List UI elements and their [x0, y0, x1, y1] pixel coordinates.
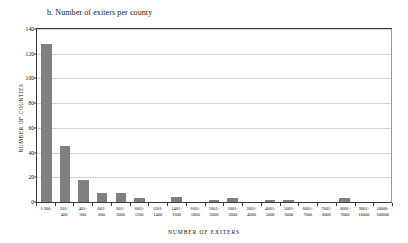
- bar-slot: [186, 29, 205, 202]
- x-tick-label: 8001-9000: [336, 206, 355, 217]
- x-tickmark: [392, 203, 393, 206]
- bar-slot: [354, 29, 373, 202]
- bar-slot: [93, 29, 112, 202]
- x-tick-label: 801-1000: [111, 206, 130, 217]
- bar: [41, 44, 51, 202]
- x-tick-label: 1801-2000: [205, 206, 224, 217]
- x-axis-title: NUMBER OF EXITERS: [0, 229, 408, 235]
- x-tick-label: 2001-3000: [223, 206, 242, 217]
- x-tick-label: 1201-1400: [148, 206, 167, 217]
- x-tick-label: 9001-10000: [354, 206, 373, 217]
- x-tick-label: 1401-1600: [167, 206, 186, 217]
- chart-page: b. Number of exiters per county NUMBER O…: [0, 0, 408, 243]
- x-tick-label: 7001-8000: [317, 206, 336, 217]
- y-axis-title: NUMBER OF COUNTIES: [18, 58, 24, 178]
- bar-slot: [279, 29, 298, 202]
- x-tick-label: 601-800: [92, 206, 111, 217]
- x-tick-label: 5001-6000: [280, 206, 299, 217]
- bar-slot: [335, 29, 354, 202]
- x-tick-label: 1-200: [36, 206, 55, 217]
- y-tick-label: 80: [28, 100, 34, 106]
- bar-slot: [74, 29, 93, 202]
- y-tick-label: 0: [31, 199, 34, 205]
- bar: [209, 200, 219, 202]
- y-tick-label: 120: [26, 51, 34, 57]
- x-axis-tick-labels: 1-200201-400401-600601-800801-10001001-1…: [36, 206, 392, 217]
- bar: [60, 146, 70, 202]
- x-tick-label: 1001-1200: [130, 206, 149, 217]
- bar-slot: [56, 29, 75, 202]
- bar: [116, 193, 126, 202]
- bar-slot: [242, 29, 261, 202]
- plot-area: 020406080100120140: [36, 28, 392, 203]
- y-tick-label: 40: [28, 150, 34, 156]
- bar-slot: [205, 29, 224, 202]
- bar-series: [37, 29, 391, 202]
- bar: [227, 198, 237, 202]
- y-tick-label: 20: [28, 174, 34, 180]
- y-tick-label: 60: [28, 125, 34, 131]
- x-tick-label: 401-600: [73, 206, 92, 217]
- bar-slot: [261, 29, 280, 202]
- x-tick-label: 4001-5000: [261, 206, 280, 217]
- bar: [339, 198, 349, 202]
- x-tick-label: 3001-4000: [242, 206, 261, 217]
- x-tick-label: 201-400: [55, 206, 74, 217]
- bar: [97, 193, 107, 202]
- y-tick-label: 140: [26, 26, 34, 32]
- bar: [265, 200, 275, 202]
- bar-slot: [372, 29, 391, 202]
- bar-slot: [316, 29, 335, 202]
- bar: [283, 200, 293, 202]
- bar-slot: [112, 29, 131, 202]
- bar-slot: [298, 29, 317, 202]
- bar-slot: [130, 29, 149, 202]
- bar: [171, 197, 181, 202]
- bar: [134, 198, 144, 202]
- bar-slot: [149, 29, 168, 202]
- chart-title: b. Number of exiters per county: [47, 8, 152, 17]
- bar-slot: [37, 29, 56, 202]
- x-tick-label: 6001-7000: [298, 206, 317, 217]
- bar-slot: [167, 29, 186, 202]
- x-tick-label: 1601-1800: [186, 206, 205, 217]
- bar: [78, 180, 88, 202]
- x-tick-label: 10000-100000: [373, 206, 392, 217]
- bar-slot: [223, 29, 242, 202]
- y-tick-label: 100: [26, 75, 34, 81]
